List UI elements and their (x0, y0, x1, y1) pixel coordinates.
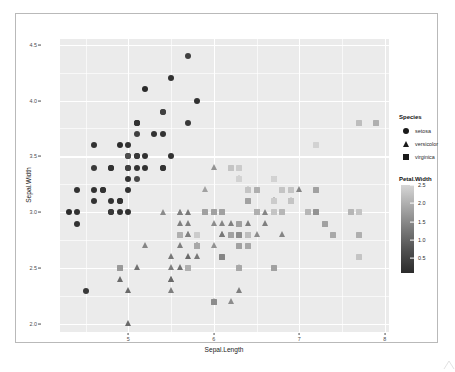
data-point-setosa (108, 209, 114, 215)
data-point-virginica (279, 209, 285, 215)
data-point-versicolor (125, 320, 131, 326)
species-legend-item-virginica[interactable]: virginica (399, 150, 455, 163)
y-tick-label: 2.0 (30, 321, 38, 327)
data-point-virginica (288, 198, 294, 204)
data-point-versicolor (117, 276, 123, 282)
plot-frame: 2.02.53.03.54.04.55678 Sepal.Width Sepal… (15, 13, 438, 343)
colorbar-gradient (401, 185, 414, 273)
data-point-setosa (91, 165, 97, 171)
data-point-setosa (151, 131, 157, 137)
data-point-setosa (125, 176, 131, 182)
corner-watermark-icon (442, 358, 455, 372)
data-point-virginica (245, 243, 251, 249)
colorbar-tick-label: 2.0 (418, 200, 426, 206)
data-point-versicolor (279, 231, 285, 237)
data-point-versicolor (262, 209, 268, 215)
colorbar-tick-mark (410, 203, 414, 204)
data-point-setosa (91, 142, 97, 148)
gridline (60, 156, 389, 157)
data-point-setosa (134, 165, 140, 171)
data-point-virginica (177, 232, 183, 238)
data-point-virginica (236, 221, 242, 227)
data-point-virginica (228, 232, 234, 238)
species-legend-items: setosaversicolorvirginica (399, 124, 455, 163)
x-tick-mark (299, 333, 300, 335)
data-point-virginica (348, 209, 354, 215)
data-point-versicolor (177, 220, 183, 226)
data-point-setosa (100, 187, 106, 193)
colorbar-tick-label: 1.0 (418, 237, 426, 243)
data-point-versicolor (177, 209, 183, 215)
data-point-virginica (202, 209, 208, 215)
species-legend-item-setosa[interactable]: setosa (399, 124, 455, 137)
data-point-virginica (254, 209, 260, 215)
data-point-versicolor (202, 186, 208, 192)
data-point-virginica (236, 176, 242, 182)
colorbar-tick-mark (410, 240, 414, 241)
data-point-virginica (322, 221, 328, 227)
plot-panel (60, 39, 389, 332)
y-tick-mark (38, 212, 40, 213)
data-point-versicolor (142, 242, 148, 248)
data-point-setosa (66, 209, 72, 215)
y-tick-mark (38, 324, 40, 325)
species-legend-label: virginica (415, 154, 435, 160)
data-point-virginica (330, 232, 336, 238)
data-point-virginica (271, 198, 277, 204)
colorbar-tick-label: 2.5 (418, 182, 426, 188)
data-point-versicolor (194, 253, 200, 259)
data-point-setosa (74, 221, 80, 227)
data-point-versicolor (185, 231, 191, 237)
data-point-setosa (168, 75, 174, 81)
x-axis-label: Sepal.Length (205, 346, 244, 353)
data-point-setosa (74, 187, 80, 193)
y-tick-mark (38, 268, 40, 269)
y-tick-mark (38, 156, 40, 157)
data-point-setosa (160, 131, 166, 137)
data-point-virginica (245, 232, 251, 238)
data-point-virginica (219, 209, 225, 215)
data-point-virginica (245, 187, 251, 193)
y-tick-label: 4.5 (30, 42, 38, 48)
gridline (60, 296, 389, 297)
species-legend-item-versicolor[interactable]: versicolor (399, 137, 455, 150)
x-tick-mark (384, 333, 385, 335)
data-point-setosa (125, 153, 131, 159)
data-point-setosa (134, 153, 140, 159)
y-axis-label: Sepal.Width (25, 167, 32, 203)
data-point-versicolor (296, 186, 302, 192)
data-point-versicolor (134, 264, 140, 270)
y-tick-mark (38, 100, 40, 101)
gridline (257, 39, 258, 332)
data-point-virginica (211, 209, 217, 215)
colorbar-tick-label: 0.5 (418, 255, 426, 261)
data-point-setosa (160, 109, 166, 115)
data-point-versicolor (185, 253, 191, 259)
data-point-virginica (356, 209, 362, 215)
data-point-virginica (236, 232, 242, 238)
data-point-virginica (271, 176, 277, 182)
data-point-setosa (185, 120, 191, 126)
x-tick-label: 6 (212, 336, 215, 342)
y-tick-label: 3.0 (30, 209, 38, 215)
data-point-virginica (236, 243, 242, 249)
data-point-virginica (219, 254, 225, 260)
data-point-versicolor (236, 287, 242, 293)
data-point-versicolor (219, 220, 225, 226)
colorbar-tick-label: 1.5 (418, 219, 426, 225)
data-point-setosa (117, 209, 123, 215)
x-tick-mark (213, 333, 214, 335)
data-point-versicolor (211, 242, 217, 248)
species-legend-title: Species (399, 114, 455, 120)
data-point-setosa (91, 198, 97, 204)
data-point-versicolor (177, 242, 183, 248)
data-point-virginica (254, 187, 260, 193)
species-legend-label: setosa (415, 128, 431, 134)
data-point-versicolor (177, 264, 183, 270)
colorbar-tick-mark (410, 258, 414, 259)
circle-marker-icon (399, 124, 412, 137)
data-point-virginica (356, 254, 362, 260)
data-point-virginica (245, 198, 251, 204)
gridline (385, 39, 386, 332)
data-point-virginica (211, 299, 217, 305)
